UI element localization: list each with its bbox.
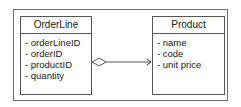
aggregation-diamond-icon [92, 58, 106, 66]
aggregation-connector [0, 0, 241, 107]
